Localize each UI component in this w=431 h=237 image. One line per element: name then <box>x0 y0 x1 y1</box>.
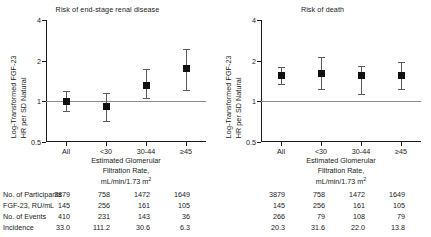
y-axis-tick <box>42 142 46 143</box>
table-cell: 36 <box>148 211 190 222</box>
table-cell: 111.2 <box>68 222 110 233</box>
x-axis-caption-line2: Filtration Rate, <box>261 166 421 176</box>
table-cell: 161 <box>323 200 365 211</box>
table-row: FGF-23, RU/mL145256161105145256161105 <box>0 200 431 211</box>
y-axis-tick <box>42 20 46 21</box>
table-cell: 145 <box>28 200 70 211</box>
x-axis-tick <box>146 142 147 146</box>
x-axis-tick <box>106 142 107 146</box>
confidence-interval-cap-lower <box>278 84 285 85</box>
confidence-interval-cap-upper <box>358 66 365 67</box>
confidence-interval-cap-lower <box>143 98 150 99</box>
point-estimate-marker <box>278 72 285 79</box>
panel-title-esrd: Risk of end-stage renal disease <box>0 5 215 14</box>
table-cell: 20.3 <box>243 222 285 233</box>
x-axis-tick-label: <30 <box>315 147 327 156</box>
x-axis-tick-label: 30-44 <box>137 147 155 156</box>
y-axis-label-line1: HR per SD Natural <box>20 77 27 138</box>
panel-title-death: Risk of death <box>215 5 430 14</box>
table-cell: 33.0 <box>28 222 70 233</box>
x-axis-caption-units: mL/min/1.73 m <box>101 178 149 187</box>
confidence-interval-cap-lower <box>103 121 110 122</box>
confidence-interval-cap-upper <box>103 93 110 94</box>
point-estimate-marker <box>358 72 365 79</box>
reference-line-hr-1 <box>46 101 206 102</box>
table-row: No. of Participants387975814721649387975… <box>0 189 431 200</box>
table-cell: 1649 <box>148 189 190 200</box>
reference-line-hr-1 <box>261 101 421 102</box>
y-axis-tick-label: 0.5 <box>246 138 256 147</box>
y-axis-tick-label: 2 <box>37 56 41 65</box>
table-cell: 22.0 <box>323 222 365 233</box>
x-axis-tick <box>401 142 402 146</box>
table-cell: 30.6 <box>108 222 150 233</box>
table-cell: 256 <box>68 200 110 211</box>
y-axis-tick <box>257 61 261 62</box>
plot-area-esrd: 0.5124All<3030-44≥45 <box>46 20 206 142</box>
confidence-interval-cap-upper <box>278 67 285 68</box>
statistics-table: No. of Participants387975814721649387975… <box>0 189 431 237</box>
x-axis-caption-line1: Estimated Glomerular <box>46 156 206 166</box>
y-axis-tick-label: 4 <box>37 16 41 25</box>
confidence-interval-cap-upper <box>183 49 190 50</box>
table-row: Incidence33.0111.230.66.320.331.622.013.… <box>0 222 431 233</box>
x-axis-caption-units: mL/min/1.73 m <box>316 178 364 187</box>
table-cell: 31.6 <box>283 222 325 233</box>
table-cell: 108 <box>323 211 365 222</box>
point-estimate-marker <box>63 98 70 105</box>
table-cell: 758 <box>68 189 110 200</box>
y-axis-label-esrd: Log-Transformed FGF-23 HR per SD Natural <box>10 14 36 142</box>
confidence-interval-cap-lower <box>318 89 325 90</box>
point-estimate-marker <box>318 70 325 77</box>
panel-death: Risk of death Log-Transformed FGF-23 HR … <box>215 0 430 190</box>
y-axis-tick <box>42 61 46 62</box>
x-axis-caption-line1: Estimated Glomerular <box>261 156 421 166</box>
panel-esrd: Risk of end-stage renal disease Log-Tran… <box>0 0 215 190</box>
forest-plot-figure: Risk of end-stage renal disease Log-Tran… <box>0 0 431 237</box>
table-cell: 79 <box>363 211 405 222</box>
confidence-interval-cap-lower <box>358 94 365 95</box>
table-cell: 143 <box>108 211 150 222</box>
table-cell: 13.8 <box>363 222 405 233</box>
table-cell: 3879 <box>243 189 285 200</box>
y-axis-tick-label: 1 <box>37 97 41 106</box>
point-estimate-marker <box>398 72 405 79</box>
y-axis-label-line2: Log-Transformed FGF-23 <box>225 55 232 138</box>
x-axis-caption-exponent: 2 <box>363 176 366 182</box>
x-axis-tick <box>321 142 322 146</box>
point-estimate-marker <box>183 65 190 72</box>
confidence-interval-cap-upper <box>398 62 405 63</box>
x-axis-caption-death: Estimated Glomerular Filtration Rate, mL… <box>261 156 421 187</box>
y-axis-tick-label: 0.5 <box>31 138 41 147</box>
x-axis-spine <box>261 141 421 142</box>
x-axis-caption-esrd: Estimated Glomerular Filtration Rate, mL… <box>46 156 206 187</box>
table-cell: 79 <box>283 211 325 222</box>
table-cell: 145 <box>243 200 285 211</box>
x-axis-caption-line2: Filtration Rate, <box>46 166 206 176</box>
table-cell: 1472 <box>108 189 150 200</box>
x-axis-tick-label: ≥45 <box>395 147 407 156</box>
y-axis-spine <box>261 20 262 142</box>
x-axis-caption-exponent: 2 <box>148 176 151 182</box>
x-axis-spine <box>46 141 206 142</box>
confidence-interval-bar <box>361 66 362 94</box>
y-axis-tick-label: 2 <box>252 56 256 65</box>
table-cell: 6.3 <box>148 222 190 233</box>
y-axis-label-line2: Log-Transformed FGF-23 <box>10 55 17 138</box>
table-cell: 1472 <box>323 189 365 200</box>
table-cell: 266 <box>243 211 285 222</box>
confidence-interval-cap-upper <box>318 57 325 58</box>
x-axis-tick <box>281 142 282 146</box>
y-axis-spine <box>46 20 47 142</box>
x-axis-tick-label: All <box>62 147 70 156</box>
y-axis-tick-label: 1 <box>252 97 256 106</box>
y-axis-tick <box>257 20 261 21</box>
x-axis-tick-label: <30 <box>100 147 112 156</box>
confidence-interval-cap-lower <box>183 90 190 91</box>
table-row: No. of Events410231143362667910879 <box>0 211 431 222</box>
plot-area-death: 0.5124All<3030-44≥45 <box>261 20 421 142</box>
x-axis-caption-line3: mL/min/1.73 m2 <box>46 175 206 187</box>
confidence-interval-cap-lower <box>63 111 70 112</box>
table-cell: 758 <box>283 189 325 200</box>
y-axis-label-line1: HR per SD Natural <box>235 77 242 138</box>
